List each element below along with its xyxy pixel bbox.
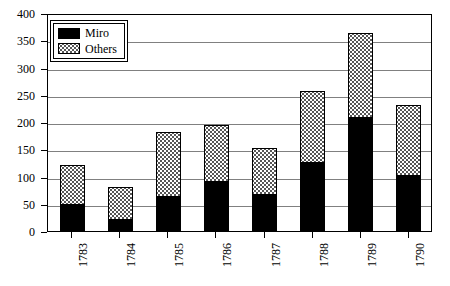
bar-group xyxy=(348,33,373,231)
bar-group xyxy=(156,132,181,231)
gridline xyxy=(48,206,431,207)
bar-segment-miro xyxy=(204,182,229,231)
y-axis-tick-mark xyxy=(41,150,47,151)
bar-segment-miro xyxy=(348,118,373,231)
y-axis-tick-label: 200 xyxy=(17,117,35,129)
gridline xyxy=(48,124,431,125)
bar-group xyxy=(300,91,325,231)
y-axis-tick-mark xyxy=(41,14,47,15)
y-axis-tick-label: 350 xyxy=(17,35,35,47)
x-axis-tick-mark xyxy=(215,232,216,238)
y-axis-tick-mark xyxy=(41,123,47,124)
x-axis-tick-label: 1790 xyxy=(414,243,426,267)
gridline xyxy=(48,70,431,71)
y-axis-tick-mark xyxy=(41,41,47,42)
bar-segment-miro xyxy=(108,220,133,231)
gridline xyxy=(48,151,431,152)
legend-swatch xyxy=(58,43,80,54)
y-axis-tick-label: 400 xyxy=(17,8,35,20)
bar-group xyxy=(60,165,85,231)
bar-group xyxy=(252,148,277,231)
bar-segment-others xyxy=(108,187,133,220)
chart-container: 050100150200250300350400 MiroOthers 1783… xyxy=(0,0,450,286)
legend-inner: MiroOthers xyxy=(53,23,125,59)
x-axis-tick-mark xyxy=(360,232,361,238)
bar-segment-others xyxy=(156,132,181,196)
legend-item: Others xyxy=(58,43,120,56)
x-axis-tick-label: 1784 xyxy=(125,243,137,267)
x-axis-tick-label: 1786 xyxy=(221,243,233,267)
y-axis-tick-mark xyxy=(41,69,47,70)
legend-item: Miro xyxy=(58,27,120,40)
x-axis-tick-label: 1785 xyxy=(173,243,185,267)
y-axis-tick-mark xyxy=(41,96,47,97)
bar-segment-miro xyxy=(60,205,85,231)
bar-group xyxy=(108,187,133,231)
bar-segment-others xyxy=(396,105,421,176)
gridline xyxy=(48,179,431,180)
bar-segment-miro xyxy=(396,176,421,231)
chart-legend: MiroOthers xyxy=(50,20,128,62)
bar-segment-others xyxy=(252,148,277,195)
legend-swatch xyxy=(58,28,80,39)
y-axis-tick-mark xyxy=(41,205,47,206)
bar-group xyxy=(396,105,421,231)
legend-label: Others xyxy=(85,43,117,55)
bar-segment-miro xyxy=(252,195,277,231)
bar-segment-others xyxy=(204,125,229,182)
gridline xyxy=(48,97,431,98)
y-axis-tick-label: 0 xyxy=(29,226,35,238)
x-axis-tick-mark xyxy=(167,232,168,238)
x-axis-tick-label: 1783 xyxy=(77,243,89,267)
x-axis-tick-mark xyxy=(312,232,313,238)
x-axis-tick-mark xyxy=(408,232,409,238)
x-axis-tick-mark xyxy=(119,232,120,238)
x-axis-tick-label: 1788 xyxy=(318,243,330,267)
legend-label: Miro xyxy=(85,27,109,39)
bar-segment-others xyxy=(300,91,325,162)
y-axis-tick-label: 100 xyxy=(17,172,35,184)
bar-segment-others xyxy=(348,33,373,117)
y-axis-tick-mark xyxy=(41,232,47,233)
bar-segment-others xyxy=(60,165,85,205)
bar-group xyxy=(204,125,229,231)
x-axis-tick-mark xyxy=(71,232,72,238)
bar-segment-miro xyxy=(300,163,325,231)
y-axis-tick-label: 250 xyxy=(17,90,35,102)
y-axis-tick-mark xyxy=(41,178,47,179)
x-axis-tick-mark xyxy=(264,232,265,238)
bar-segment-miro xyxy=(156,197,181,231)
x-axis-tick-label: 1789 xyxy=(366,243,378,267)
y-axis-tick-label: 50 xyxy=(23,199,35,211)
y-axis-tick-label: 300 xyxy=(17,63,35,75)
y-axis: 050100150200250300350400 xyxy=(0,0,43,286)
y-axis-tick-label: 150 xyxy=(17,144,35,156)
x-axis-tick-label: 1787 xyxy=(270,243,282,267)
